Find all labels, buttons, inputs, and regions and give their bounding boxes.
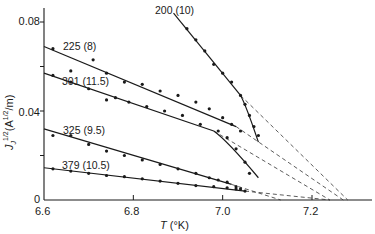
data-point bbox=[243, 161, 246, 164]
series-label-301: 301 (11.5) bbox=[62, 76, 109, 87]
data-point bbox=[221, 72, 224, 75]
data-point bbox=[226, 186, 229, 189]
data-point bbox=[163, 109, 166, 112]
data-point bbox=[92, 58, 95, 61]
data-point bbox=[159, 179, 162, 182]
data-point bbox=[217, 178, 220, 181]
data-point bbox=[105, 98, 108, 101]
data-point bbox=[194, 172, 197, 175]
extrapolation-line bbox=[241, 95, 348, 200]
data-point bbox=[51, 74, 54, 77]
data-point bbox=[176, 182, 179, 185]
y-tick-label-0.08: 0.08 bbox=[6, 16, 40, 27]
data-point bbox=[239, 94, 242, 97]
data-point bbox=[159, 89, 162, 92]
axes bbox=[44, 8, 372, 200]
fit-curve bbox=[214, 131, 259, 178]
fit-line bbox=[44, 129, 232, 185]
series-label-379: 379 (10.5) bbox=[62, 160, 110, 171]
series-label-325: 325 (9.5) bbox=[63, 125, 105, 136]
data-point bbox=[176, 167, 179, 170]
series-label-225: 225 (8) bbox=[63, 41, 96, 52]
data-point bbox=[248, 172, 251, 175]
data-point bbox=[51, 47, 54, 50]
series-label-200: 200 (10) bbox=[155, 5, 194, 16]
data-point bbox=[226, 136, 229, 139]
x-axis-unit: (°K) bbox=[170, 219, 189, 231]
data-point bbox=[127, 101, 130, 104]
data-point bbox=[176, 94, 179, 97]
data-point bbox=[252, 125, 255, 128]
data-point bbox=[114, 96, 117, 99]
x-tick-label-6.8: 6.8 bbox=[124, 206, 139, 217]
data-point bbox=[248, 114, 251, 117]
data-point bbox=[194, 184, 197, 187]
data-point bbox=[87, 172, 90, 175]
data-point bbox=[51, 134, 54, 137]
data-point bbox=[181, 114, 184, 117]
extrapolation-line bbox=[232, 184, 281, 200]
x-axis-title: T (°K) bbox=[160, 220, 189, 231]
data-point bbox=[105, 149, 108, 152]
data-point bbox=[87, 87, 90, 90]
data-point bbox=[123, 80, 126, 83]
data-point bbox=[194, 38, 197, 41]
data-point bbox=[221, 116, 224, 119]
data-point bbox=[208, 176, 211, 179]
data-point bbox=[230, 123, 233, 126]
y-tick-label-0: 0 bbox=[6, 194, 40, 205]
data-point bbox=[145, 105, 148, 108]
data-point bbox=[51, 167, 54, 170]
data-point bbox=[203, 49, 206, 52]
data-point bbox=[243, 103, 246, 106]
y-axis-title: JJ1/2(A1/2/m) bbox=[2, 95, 17, 150]
data-point bbox=[212, 63, 215, 66]
data-point bbox=[239, 129, 242, 132]
data-point bbox=[208, 107, 211, 110]
data-point bbox=[69, 69, 72, 72]
data-point bbox=[234, 147, 237, 150]
data-point bbox=[230, 80, 233, 83]
data-point bbox=[217, 129, 220, 132]
data-point bbox=[123, 175, 126, 178]
data-point bbox=[194, 101, 197, 104]
x-tick-label-7.2: 7.2 bbox=[303, 206, 318, 217]
data-point bbox=[212, 185, 215, 188]
data-point bbox=[141, 83, 144, 86]
data-point bbox=[141, 177, 144, 180]
data-point bbox=[226, 181, 229, 184]
extrapolation-line bbox=[236, 127, 343, 200]
fit-curve bbox=[241, 95, 259, 142]
data-point bbox=[199, 123, 202, 126]
x-axis-symbol: T bbox=[160, 219, 167, 231]
data-point bbox=[141, 158, 144, 161]
data-point bbox=[159, 163, 162, 166]
data-point bbox=[185, 27, 188, 30]
data-point bbox=[239, 187, 242, 190]
chart-plot-area bbox=[0, 0, 375, 234]
x-tick-label-7.0: 7.0 bbox=[215, 206, 230, 217]
data-point bbox=[257, 134, 260, 137]
data-point bbox=[123, 154, 126, 157]
extrapolation-lines bbox=[214, 95, 348, 200]
x-tick-label-6.6: 6.6 bbox=[35, 206, 50, 217]
data-point bbox=[234, 187, 237, 190]
data-point bbox=[243, 190, 246, 193]
data-point bbox=[105, 174, 108, 177]
y-axis-symbol: J bbox=[3, 145, 15, 151]
data-point bbox=[87, 143, 90, 146]
